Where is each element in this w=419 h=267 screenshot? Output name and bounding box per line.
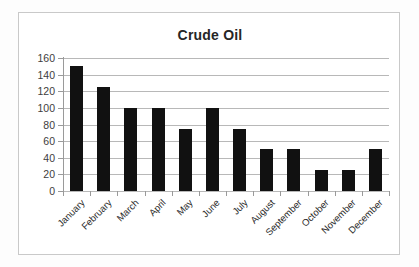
x-axis-tick bbox=[253, 191, 254, 196]
bar bbox=[287, 149, 300, 191]
bar bbox=[97, 87, 110, 191]
x-axis-tick bbox=[308, 191, 309, 196]
bar bbox=[342, 170, 355, 191]
x-axis-tick bbox=[389, 191, 390, 196]
bar bbox=[369, 149, 382, 191]
y-axis-tick-label: 40 bbox=[21, 153, 55, 163]
x-axis-tick bbox=[199, 191, 200, 196]
bar bbox=[233, 129, 246, 191]
chart-title: Crude Oil bbox=[19, 27, 401, 43]
chart-image: Crude Oil 020406080100120140160 JanuaryF… bbox=[0, 0, 419, 267]
x-axis-tick bbox=[335, 191, 336, 196]
y-axis-tick bbox=[58, 75, 64, 76]
y-axis-tick-label: 140 bbox=[21, 70, 55, 80]
x-axis-tick bbox=[145, 191, 146, 196]
y-axis-tick bbox=[58, 141, 64, 142]
bar bbox=[260, 149, 273, 191]
y-axis-tick-label: 160 bbox=[21, 53, 55, 63]
chart-frame: Crude Oil 020406080100120140160 JanuaryF… bbox=[18, 12, 400, 255]
y-axis-tick-label: 20 bbox=[21, 169, 55, 179]
bar bbox=[152, 108, 165, 191]
x-axis-tick bbox=[117, 191, 118, 196]
x-axis-tick bbox=[63, 191, 64, 196]
y-axis-tick bbox=[58, 58, 64, 59]
y-axis-tick bbox=[58, 158, 64, 159]
y-axis-tick-label: 0 bbox=[21, 186, 55, 196]
y-axis-tick bbox=[58, 174, 64, 175]
y-axis-tick bbox=[58, 125, 64, 126]
y-axis-tick-label: 80 bbox=[21, 120, 55, 130]
bar-series bbox=[63, 58, 389, 191]
bar bbox=[124, 108, 137, 191]
bar bbox=[206, 108, 219, 191]
y-axis-tick bbox=[58, 108, 64, 109]
bar bbox=[179, 129, 192, 191]
x-axis-tick bbox=[226, 191, 227, 196]
x-axis-tick bbox=[280, 191, 281, 196]
x-axis-tick bbox=[90, 191, 91, 196]
y-axis-tick-label: 60 bbox=[21, 136, 55, 146]
y-axis-tick-label: 120 bbox=[21, 86, 55, 96]
bar bbox=[70, 66, 83, 191]
x-axis-labels: JanuaryFebruaryMarchAprilMayJuneJulyAugu… bbox=[63, 197, 403, 255]
bar bbox=[315, 170, 328, 191]
x-axis-tick bbox=[362, 191, 363, 196]
y-axis-labels: 020406080100120140160 bbox=[19, 13, 55, 256]
y-axis-tick-label: 100 bbox=[21, 103, 55, 113]
x-axis-tick bbox=[172, 191, 173, 196]
y-axis-tick bbox=[58, 91, 64, 92]
